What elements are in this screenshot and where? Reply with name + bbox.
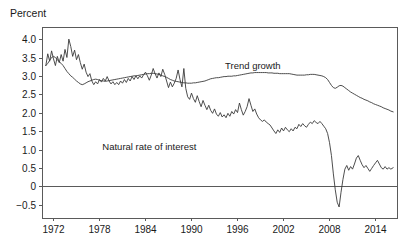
y-tick-label: 0 xyxy=(30,181,36,192)
y-tick-label: 1.5 xyxy=(22,126,36,137)
plot-border xyxy=(42,27,397,218)
x-axis-ticks: 19721978198419901996200220082014 xyxy=(42,218,387,235)
y-axis-title: Percent xyxy=(10,7,46,19)
y-tick-label: 2.5 xyxy=(22,89,36,100)
y-tick-label: 4.0 xyxy=(22,34,36,45)
x-tick-label: 1984 xyxy=(134,224,157,235)
x-tick-label: 1978 xyxy=(88,224,111,235)
series-line-natural-rate-of-interest xyxy=(46,39,393,207)
y-tick-label: −0.5 xyxy=(16,200,36,211)
y-tick-label: 2.0 xyxy=(22,108,36,119)
y-axis-ticks: 4.03.53.02.52.01.51.00.50−0.5 xyxy=(16,34,42,210)
plot-frame xyxy=(42,27,397,218)
y-tick-label: 3.0 xyxy=(22,71,36,82)
y-tick-label: 1.0 xyxy=(22,145,36,156)
natural-rate-trend-growth-chart: Percent 4.03.53.02.52.01.51.00.50−0.5 19… xyxy=(0,0,412,248)
y-tick-label: 3.5 xyxy=(22,53,36,64)
natural-rate-label: Natural rate of interest xyxy=(102,141,196,152)
y-tick-label: 0.5 xyxy=(22,163,36,174)
x-tick-label: 2014 xyxy=(364,224,387,235)
series-annotations: Trend growthNatural rate of interest xyxy=(102,60,280,153)
x-tick-label: 2008 xyxy=(318,224,341,235)
x-tick-label: 1996 xyxy=(226,224,249,235)
trend-growth-label: Trend growth xyxy=(225,60,281,71)
chart-container: Percent 4.03.53.02.52.01.51.00.50−0.5 19… xyxy=(0,0,412,248)
series-lines xyxy=(46,39,393,207)
x-tick-label: 2002 xyxy=(272,224,295,235)
x-tick-label: 1990 xyxy=(180,224,203,235)
x-tick-label: 1972 xyxy=(42,224,65,235)
